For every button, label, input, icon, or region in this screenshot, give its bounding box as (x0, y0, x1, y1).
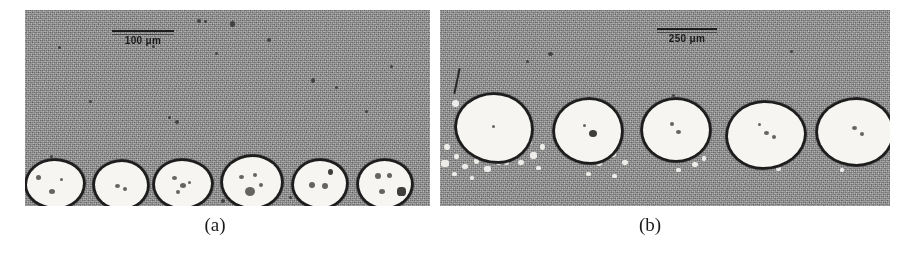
background-speck (58, 46, 61, 49)
background-speck (215, 52, 218, 55)
background-speck (672, 94, 675, 97)
particle-pore (852, 126, 857, 130)
particle-pore (583, 124, 586, 127)
background-speck (197, 19, 201, 23)
micrograph-panel-b: 250 μm (440, 10, 890, 206)
background-speck (289, 196, 292, 199)
background-speck (89, 100, 92, 103)
scale-bar-label: 250 μm (657, 34, 717, 44)
particle-pore (309, 182, 315, 188)
particle-pore (115, 184, 120, 188)
particle-pore (322, 183, 328, 189)
particle-pore (253, 173, 257, 177)
background-speck (526, 60, 529, 63)
particle-pore (676, 130, 681, 134)
particle (728, 103, 804, 167)
particle (643, 100, 709, 160)
particle (359, 161, 411, 206)
particle-pore (379, 189, 385, 194)
background-speck (230, 21, 235, 27)
particle (555, 100, 621, 162)
particle-pore (123, 187, 127, 191)
particle-pore (328, 169, 333, 175)
background-speck (390, 65, 393, 68)
particle-pore (492, 125, 495, 128)
particle-pore (387, 173, 392, 178)
particle-pore (670, 122, 674, 126)
particle (294, 161, 346, 206)
particle-pore (180, 183, 186, 188)
particle-pore (589, 130, 597, 137)
particle-pore (375, 173, 381, 179)
scale-bar-line (112, 30, 174, 32)
particle (457, 95, 531, 161)
particle-pore (772, 135, 776, 139)
background-speck (365, 110, 368, 113)
particle (155, 161, 211, 206)
panel-b-caption: (b) (600, 214, 700, 236)
background-speck (204, 20, 207, 23)
background-speck (267, 38, 271, 42)
particle-pore (176, 190, 180, 194)
particle-pore (49, 189, 55, 194)
micrograph-panel-a: 100 μm (25, 10, 430, 206)
particle-pore (60, 178, 63, 181)
background-speck (790, 50, 793, 53)
background-speck (168, 116, 171, 119)
particle (818, 100, 890, 164)
particle-pore (188, 181, 191, 184)
particle-pore (764, 131, 769, 135)
figure-container: 100 μm (0, 0, 920, 259)
background-speck (175, 120, 179, 124)
background-speck (548, 52, 553, 56)
particle-pore (397, 187, 406, 196)
particle-pore (259, 183, 263, 187)
dark-streak-marker (453, 68, 460, 94)
background-speck (311, 78, 315, 83)
particle-pore (36, 175, 41, 180)
scale-bar-line (657, 28, 717, 30)
particle (27, 161, 83, 206)
particle-pore (172, 176, 177, 180)
background-speck (221, 199, 225, 203)
particle-pore (239, 175, 244, 179)
scale-bar-label: 100 μm (112, 36, 174, 46)
particle-pore (245, 187, 255, 196)
particle-pore (758, 123, 761, 126)
particle (95, 162, 147, 206)
particle-pore (860, 132, 864, 136)
bright-speck (452, 100, 459, 107)
panel-a-caption: (a) (165, 214, 265, 236)
background-speck (335, 86, 338, 89)
particle (223, 157, 281, 206)
background-speck (50, 155, 53, 158)
